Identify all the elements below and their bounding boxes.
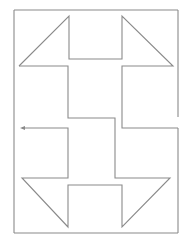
arrowhead-left-icon bbox=[20, 126, 25, 130]
diagram-canvas bbox=[0, 0, 189, 242]
bottom-arrow-shape bbox=[19, 66, 170, 227]
puzzle-diagram bbox=[0, 0, 189, 242]
top-arrow-shape bbox=[19, 16, 178, 128]
